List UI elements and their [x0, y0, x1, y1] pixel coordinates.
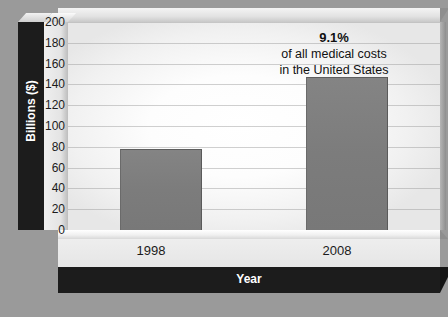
gridline — [68, 22, 440, 23]
bar-chart: 19982008 Year Billions ($) 2001801601401… — [0, 0, 448, 317]
y-axis-tick-label: 160 — [45, 58, 65, 70]
annotation-line-3: in the United States — [279, 63, 388, 77]
x-axis-category-band: 19982008 — [58, 239, 440, 267]
y-axis-tick-label: 60 — [52, 162, 65, 174]
annotation-callout: 9.1% of all medical costs in the United … — [246, 30, 422, 78]
bar-2008 — [306, 77, 388, 230]
y-axis-tick-label: 40 — [52, 182, 65, 194]
y-axis-tick-label: 80 — [52, 141, 65, 153]
y-axis-tick-label: 200 — [45, 16, 65, 28]
y-axis-tick-label: 180 — [45, 37, 65, 49]
chart-frame-top-bevel — [58, 8, 440, 22]
y-axis-tick-label: 20 — [52, 203, 65, 215]
plot-area-right-bevel — [440, 22, 446, 230]
y-axis-tick-label: 140 — [45, 78, 65, 90]
y-axis-title: Billions ($) — [24, 7, 38, 215]
annotation-percent: 9.1% — [246, 30, 422, 46]
bar-1998 — [120, 149, 202, 230]
x-axis-category-label: 1998 — [106, 243, 196, 258]
plot-floor — [58, 230, 440, 239]
y-axis-tick-strip: 200180160140120100806040200 — [44, 22, 68, 230]
y-axis-tick-label: 0 — [58, 224, 65, 236]
x-axis-category-label: 2008 — [292, 243, 382, 258]
y-axis-tick-label: 100 — [45, 120, 65, 132]
y-axis-title-band: Billions ($) — [18, 22, 44, 230]
annotation-line-2: of all medical costs — [281, 47, 387, 61]
x-axis-title-band: Year — [58, 267, 440, 293]
x-axis-title: Year — [58, 272, 440, 286]
y-axis-tick-label: 120 — [45, 99, 65, 111]
